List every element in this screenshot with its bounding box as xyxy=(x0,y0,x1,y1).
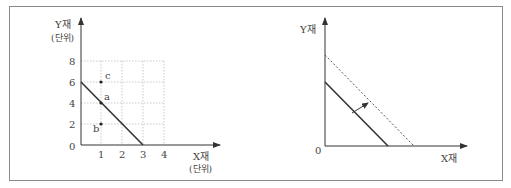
left-origin-label: 0 xyxy=(69,141,75,152)
x-tick-3: 3 xyxy=(140,149,146,160)
left-y-axis-title: Y재 xyxy=(54,19,71,30)
shifted-budget-line xyxy=(325,55,414,146)
point-a xyxy=(99,101,102,104)
point-c xyxy=(99,80,102,83)
right-y-axis-title: Y재 xyxy=(299,24,316,35)
original-budget-line xyxy=(325,82,388,146)
y-tick-2: 2 xyxy=(69,119,75,130)
right-origin-label: 0 xyxy=(315,145,321,156)
shift-arrow xyxy=(352,103,368,113)
y-tick-4: 4 xyxy=(69,98,75,109)
left-chart: c a b 8 6 4 2 0 1 2 3 4 Y재 (단위) X재 (단위) xyxy=(51,18,220,174)
left-y-axis-unit: (단위) xyxy=(51,33,74,43)
right-chart: Y재 X재 0 xyxy=(299,18,467,164)
right-x-axis-title: X재 xyxy=(441,153,457,164)
x-tick-4: 4 xyxy=(161,149,167,160)
left-budget-line xyxy=(81,82,143,145)
x-tick-2: 2 xyxy=(119,149,125,160)
point-a-label: a xyxy=(104,91,110,102)
y-tick-8: 8 xyxy=(69,56,75,67)
left-x-axis-title: X재 xyxy=(193,151,209,162)
point-c-label: c xyxy=(105,70,111,81)
left-x-axis-unit: (단위) xyxy=(189,164,212,174)
point-b xyxy=(99,122,102,125)
point-b-label: b xyxy=(93,123,99,134)
y-tick-6: 6 xyxy=(69,77,75,88)
diagram-canvas: c a b 8 6 4 2 0 1 2 3 4 Y재 (단위) X재 (단위) … xyxy=(0,0,511,188)
x-tick-1: 1 xyxy=(98,149,104,160)
